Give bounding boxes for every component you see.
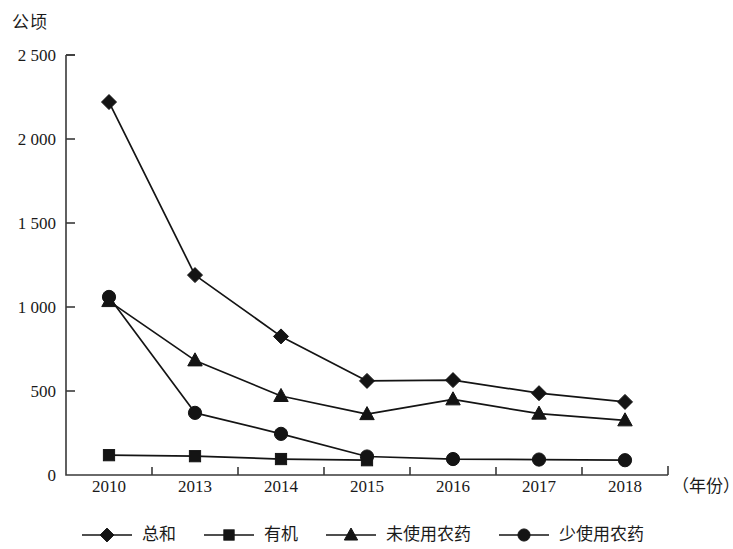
legend-marker-swatch	[202, 525, 256, 545]
triangle-marker-icon	[446, 392, 460, 405]
triangle-marker-icon	[344, 528, 357, 540]
circle-marker-icon	[446, 452, 459, 465]
legend-item[interactable]: 有机	[202, 525, 298, 545]
square-marker-icon	[223, 529, 233, 539]
square-marker-icon	[103, 450, 114, 461]
series-square	[103, 450, 372, 466]
series-diamond	[102, 95, 633, 410]
legend-item[interactable]: 少使用农药	[497, 525, 644, 545]
diamond-marker-icon	[102, 95, 117, 110]
diamond-marker-icon	[100, 528, 114, 542]
legend-item-label: 未使用农药	[386, 526, 471, 543]
series-line	[109, 102, 625, 402]
diamond-marker-icon	[274, 329, 289, 344]
legend-item[interactable]: 总和	[80, 525, 176, 545]
diamond-marker-icon	[532, 386, 547, 401]
legend-marker-swatch	[324, 525, 378, 545]
circle-marker-icon	[188, 406, 201, 419]
legend-item-label: 少使用农药	[559, 526, 644, 543]
diamond-marker-icon	[618, 394, 633, 409]
circle-marker-icon	[517, 528, 529, 540]
square-marker-icon	[275, 453, 286, 464]
series-line	[109, 455, 367, 460]
square-marker-icon	[189, 451, 200, 462]
circle-marker-icon	[532, 453, 545, 466]
chart-legend: 总和有机未使用农药少使用农药	[0, 520, 723, 549]
triangle-marker-icon	[274, 388, 288, 401]
legend-item[interactable]: 未使用农药	[324, 525, 471, 545]
legend-item-label: 总和	[142, 526, 176, 543]
circle-marker-icon	[102, 290, 115, 303]
triangle-marker-icon	[188, 353, 202, 366]
diamond-marker-icon	[446, 373, 461, 388]
legend-marker-swatch	[497, 525, 551, 545]
legend-marker-swatch	[80, 525, 134, 545]
series-triangle	[102, 294, 632, 426]
circle-marker-icon	[274, 427, 287, 440]
legend-item-label: 有机	[264, 526, 298, 543]
diamond-marker-icon	[360, 373, 375, 388]
circle-marker-icon	[360, 450, 373, 463]
diamond-marker-icon	[188, 268, 203, 283]
circle-marker-icon	[618, 454, 631, 467]
